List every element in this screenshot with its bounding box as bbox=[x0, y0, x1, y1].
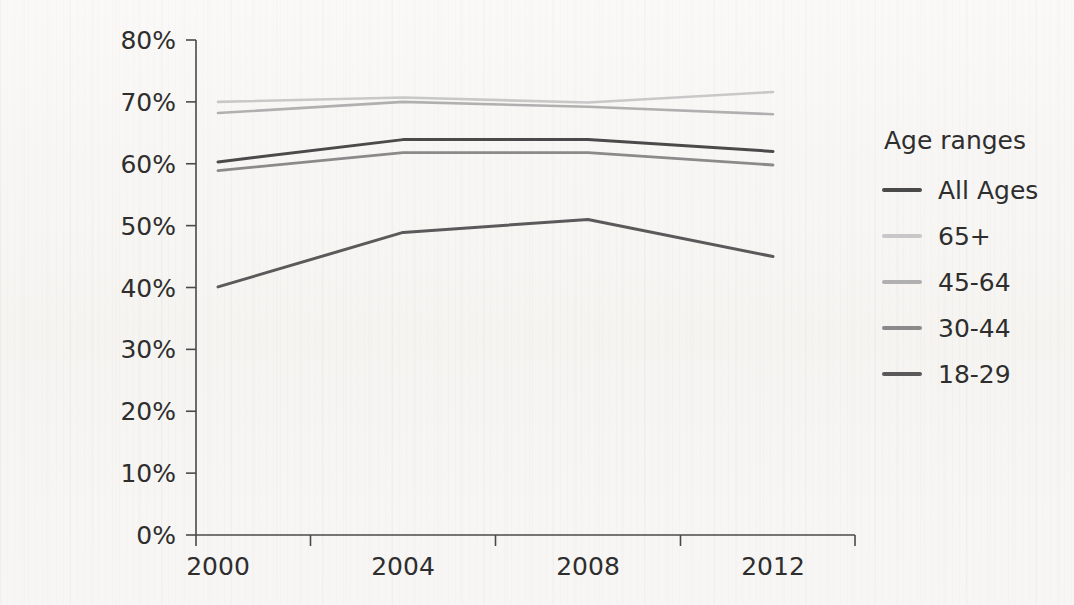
legend-item[interactable]: 65+ bbox=[882, 213, 1068, 259]
series-lines bbox=[218, 92, 773, 287]
y-tick-label: 80% bbox=[120, 26, 176, 55]
legend-item-label: 45-64 bbox=[938, 268, 1011, 297]
y-axis: 0%10%20%30%40%50%60%70%80% bbox=[120, 26, 196, 550]
legend-title: Age ranges bbox=[884, 126, 1068, 155]
x-tick-label: 2012 bbox=[741, 552, 805, 581]
legend-swatch-line-icon bbox=[882, 234, 922, 238]
legend-item-label: 30-44 bbox=[938, 314, 1011, 343]
x-tick-label: 2000 bbox=[186, 552, 250, 581]
chart-legend: Age ranges All Ages65+45-6430-4418-29 bbox=[882, 126, 1068, 397]
y-tick-label: 10% bbox=[120, 459, 176, 488]
y-tick-label: 0% bbox=[136, 521, 176, 550]
legend-item-label: 18-29 bbox=[938, 360, 1011, 389]
x-tick-label: 2008 bbox=[556, 552, 620, 581]
legend-item[interactable]: All Ages bbox=[882, 167, 1068, 213]
y-tick-label: 50% bbox=[120, 212, 176, 241]
legend-swatch-line-icon bbox=[882, 372, 922, 376]
y-tick-label: 30% bbox=[120, 335, 176, 364]
legend-swatch-line-icon bbox=[882, 280, 922, 284]
legend-item-label: All Ages bbox=[938, 176, 1038, 205]
x-axis: 2000200420082012 bbox=[186, 535, 855, 581]
series-line-65- bbox=[218, 92, 773, 103]
series-line-18-29 bbox=[218, 219, 773, 286]
y-tick-label: 70% bbox=[120, 88, 176, 117]
series-line-30-44 bbox=[218, 153, 773, 171]
legend-swatch-line-icon bbox=[882, 326, 922, 330]
x-tick-label: 2004 bbox=[371, 552, 435, 581]
legend-item[interactable]: 45-64 bbox=[882, 259, 1068, 305]
line-chart: 0%10%20%30%40%50%60%70%80% 2000200420082… bbox=[0, 0, 1074, 605]
y-tick-label: 60% bbox=[120, 150, 176, 179]
y-tick-label: 40% bbox=[120, 274, 176, 303]
y-tick-label: 20% bbox=[120, 397, 176, 426]
legend-swatch-line-icon bbox=[882, 188, 922, 192]
series-line-45-64 bbox=[218, 102, 773, 114]
legend-item[interactable]: 30-44 bbox=[882, 305, 1068, 351]
legend-item-label: 65+ bbox=[938, 222, 991, 251]
legend-item-list: All Ages65+45-6430-4418-29 bbox=[882, 167, 1068, 397]
legend-item[interactable]: 18-29 bbox=[882, 351, 1068, 397]
